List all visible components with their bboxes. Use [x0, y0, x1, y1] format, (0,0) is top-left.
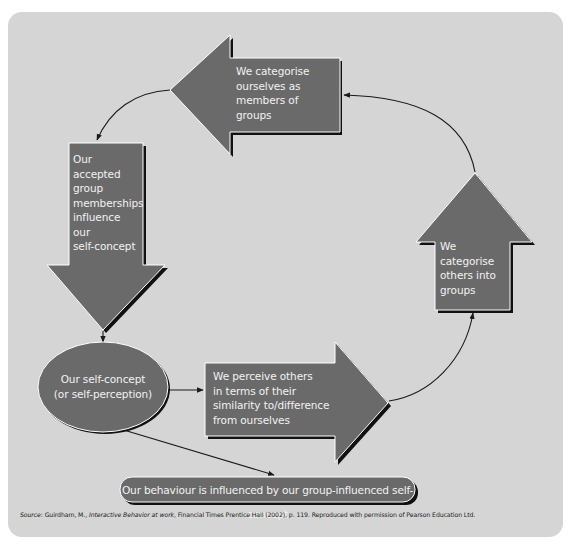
connector-categorise-others-to-ourselves: [344, 95, 475, 172]
label-categorise-ourselves: We categorise ourselves as members of gr…: [236, 64, 309, 122]
text-line: ourselves as: [236, 79, 309, 94]
connector-categorise-ourselves-to-memberships: [97, 90, 170, 140]
text-line: self-concept: [73, 239, 143, 254]
text-line: others into: [440, 268, 496, 283]
text-line: influence: [73, 210, 143, 225]
label-behaviour: Our behaviour is influenced by our group…: [120, 478, 415, 502]
text-line: from ourselves: [213, 413, 329, 428]
connector-perceive-to-categorise-others: [389, 313, 473, 401]
text-line: memberships: [73, 196, 143, 211]
source-citation: Source: Guirdham, M., Interactive Behavi…: [20, 511, 560, 518]
text-line: We categorise: [236, 64, 309, 79]
text-line: similarity to/difference: [213, 398, 329, 413]
label-perceive-others: We perceive others in terms of their sim…: [213, 369, 329, 427]
text-line: (or self-perception): [43, 387, 163, 402]
text-line: in terms of their: [213, 384, 329, 399]
text-line: group: [73, 181, 143, 196]
source-title: Interactive Behavior at work: [89, 511, 174, 518]
text-line: groups: [440, 283, 496, 298]
text-line: members of: [236, 93, 309, 108]
text-line: Our: [73, 152, 143, 167]
source-rest: , Financial Times Prentice Hall (2002), …: [174, 511, 475, 518]
text-line: groups: [236, 108, 309, 123]
text-line: We: [440, 239, 496, 254]
label-categorise-others: We categorise others into groups: [440, 239, 496, 297]
text-line: categorise: [440, 254, 496, 269]
label-self-concept: Our self-concept (or self-perception): [43, 372, 163, 401]
source-prefix: Source: [20, 511, 41, 518]
source-author: : Guirdham, M.,: [41, 511, 89, 518]
text-line: We perceive others: [213, 369, 329, 384]
text-line: Our self-concept: [43, 372, 163, 387]
text-line: accepted: [73, 167, 143, 182]
text-line: our: [73, 225, 143, 240]
label-accepted-memberships: Our accepted group memberships influence…: [73, 152, 143, 254]
